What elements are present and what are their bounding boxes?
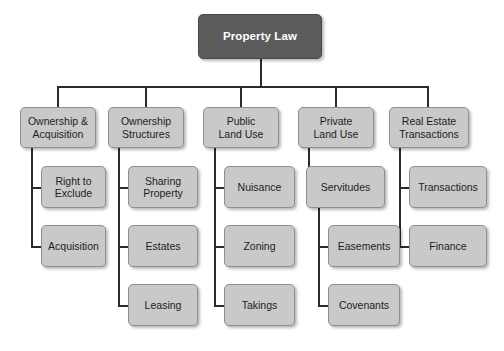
node-label-line2: Exclude [55,187,92,199]
node-takings[interactable]: Takings [224,284,295,326]
node-easements[interactable]: Easements [328,225,400,267]
node-label: Nuisance [235,181,285,193]
connector-stub-2-2 [118,246,128,248]
node-label-line1: Public [227,115,256,127]
connector-drop-branch-1 [57,86,59,109]
node-label: Finance [426,240,469,252]
node-covenants[interactable]: Covenants [328,284,400,326]
node-label: Ownership Structures [118,115,174,140]
node-label: Takings [239,299,281,311]
connector-stub-2-1 [118,187,128,189]
node-label: Right to Exclude [52,175,95,200]
node-private-land-use[interactable]: Private Land Use [298,107,374,148]
connector-spine-branch-2 [118,148,120,306]
connector-drop-branch-3 [240,86,242,109]
connector-stub-5-1 [399,187,409,189]
node-leasing[interactable]: Leasing [128,284,198,326]
node-label-line2: Land Use [314,128,359,140]
node-label-line2: Acquisition [33,128,84,140]
node-servitudes[interactable]: Servitudes [306,166,385,208]
connector-stub-2-3 [118,305,128,307]
node-label: Private Land Use [311,115,362,140]
node-right-to-exclude[interactable]: Right to Exclude [41,166,106,208]
node-sharing-property[interactable]: Sharing Property [128,166,198,208]
node-label-line2: Land Use [219,128,264,140]
connector-drop-branch-2 [145,86,147,109]
node-label: Estates [142,240,183,252]
connector-stub-3-2 [214,246,224,248]
connector-stub-3-3 [214,305,224,307]
node-label-line1: Right to [55,175,91,187]
node-finance[interactable]: Finance [409,225,487,267]
node-label: Leasing [142,299,185,311]
connector-stub-1-1 [31,187,41,189]
node-label: Ownership & Acquisition [25,115,91,140]
connector-spine-branch-1 [31,148,33,247]
node-label: Real Estate Transactions [396,115,462,140]
node-label-line2: Transactions [399,128,459,140]
connector-root-stem [260,59,262,87]
connector-drop-branch-4 [335,86,337,109]
node-label-line1: Ownership & [28,115,88,127]
connector-spine-branch-3 [214,148,216,306]
node-real-estate-transactions[interactable]: Real Estate Transactions [389,107,469,148]
node-public-land-use[interactable]: Public Land Use [203,107,279,148]
node-ownership-acquisition[interactable]: Ownership & Acquisition [20,107,96,148]
connector-stub-1-2 [31,246,41,248]
connector-stub-servitudes-2 [318,305,328,307]
node-label: Transactions [415,181,481,193]
node-label-line1: Real Estate [402,115,456,127]
node-estates[interactable]: Estates [128,225,198,267]
node-property-law[interactable]: Property Law [198,14,322,59]
node-label: Property Law [220,30,300,44]
connector-stub-5-2 [399,246,409,248]
node-label: Easements [335,240,394,252]
node-label-line1: Private [320,115,353,127]
node-ownership-structures[interactable]: Ownership Structures [108,107,184,148]
connector-stub-servitudes-1 [318,246,328,248]
node-zoning[interactable]: Zoning [224,225,295,267]
connector-spine-servitudes [318,208,320,306]
node-acquisition[interactable]: Acquisition [41,225,106,267]
node-label-line2: Structures [122,128,170,140]
node-label-line2: Property [143,187,183,199]
node-label: Zoning [240,240,278,252]
node-label: Sharing Property [140,175,186,200]
node-label: Acquisition [45,240,102,252]
connector-drop-branch-5 [427,86,429,109]
connector-level1-bus [57,86,427,88]
node-label-line1: Sharing [145,175,181,187]
node-label-line1: Ownership [121,115,171,127]
node-label: Public Land Use [216,115,267,140]
connector-stub-3-1 [214,187,224,189]
node-label: Servitudes [318,181,374,193]
node-label: Covenants [336,299,392,311]
node-transactions[interactable]: Transactions [409,166,487,208]
property-law-hierarchy-diagram: Property Law Ownership & Acquisition Own… [0,0,504,351]
node-nuisance[interactable]: Nuisance [224,166,295,208]
